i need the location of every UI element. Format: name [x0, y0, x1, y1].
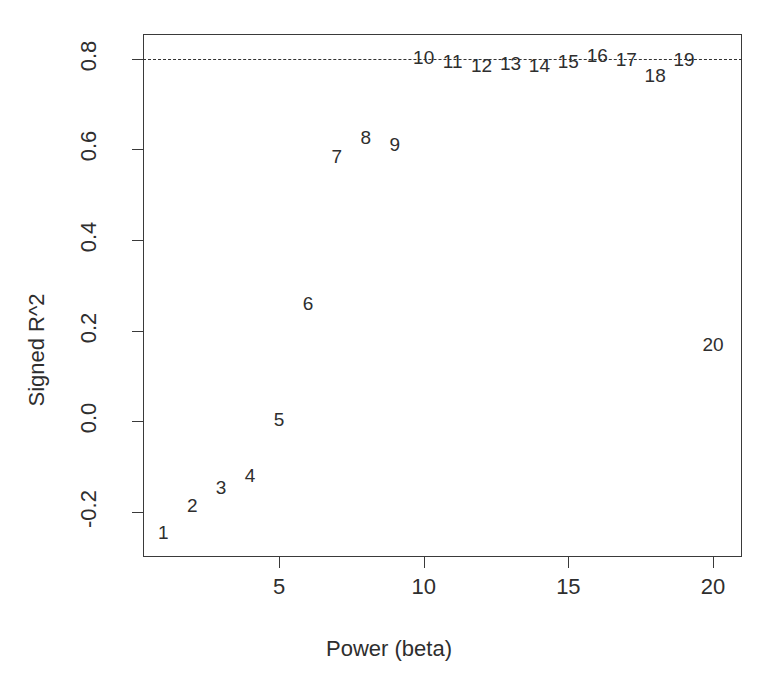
x-axis-tick	[713, 557, 714, 568]
x-axis-tick-label: 5	[273, 574, 285, 600]
y-axis-tick-label-text: 0.0	[76, 403, 102, 434]
y-axis-tick-label-text: 0.8	[76, 41, 102, 72]
y-axis-tick	[132, 240, 143, 241]
x-axis-tick-label: 10	[411, 574, 435, 600]
plot-frame	[143, 34, 742, 557]
y-axis-tick-label: 0.6	[59, 133, 119, 159]
y-axis-tick-label: 0.2	[59, 315, 119, 341]
y-axis-title-text: Signed R^2	[24, 293, 50, 406]
y-axis-tick	[132, 331, 143, 332]
x-axis-tick	[424, 557, 425, 568]
y-axis-tick	[132, 512, 143, 513]
y-axis-tick-label-text: 0.6	[76, 131, 102, 162]
y-axis-tick-label: 0.8	[59, 43, 119, 69]
y-axis-title: Signed R^2	[12, 0, 62, 699]
y-axis-tick-label-text: -0.2	[76, 490, 102, 528]
y-axis-tick-label: -0.2	[59, 496, 119, 522]
x-axis-tick	[279, 557, 280, 568]
x-axis-tick	[568, 557, 569, 568]
x-axis-tick-label: 15	[556, 574, 580, 600]
y-axis-tick	[132, 59, 143, 60]
y-axis-tick-label-text: 0.4	[76, 222, 102, 253]
y-axis-tick	[132, 149, 143, 150]
y-axis-tick	[132, 421, 143, 422]
y-axis-tick-label: 0.4	[59, 224, 119, 250]
y-axis-tick-label-text: 0.2	[76, 312, 102, 343]
x-axis-tick-label: 20	[701, 574, 725, 600]
scatter-plot-figure: Signed R^2 Power (beta) -0.20.00.20.40.6…	[0, 0, 778, 699]
x-axis-title: Power (beta)	[0, 636, 778, 662]
y-axis-tick-label: 0.0	[59, 405, 119, 431]
